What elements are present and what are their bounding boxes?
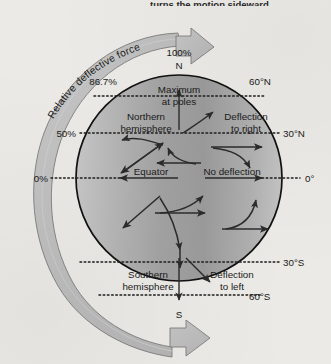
deflection-right-line1: Deflection (224, 111, 268, 122)
coriolis-diagram-svg: Relative deflective force (0, 0, 331, 364)
south-pole-label: S (176, 309, 183, 320)
equator-label: Equator (134, 166, 169, 177)
percent-label-0: 0% (34, 173, 48, 184)
diagram-stage: turns the motion sideward. (0, 0, 331, 364)
deflection-left-line1: Deflection (210, 269, 254, 280)
no-deflection-label: No deflection (203, 166, 260, 177)
latitude-label-30s: 30°S (283, 257, 305, 268)
clipped-caption-text: turns the motion sideward. (150, 0, 271, 6)
percent-label-100: 100% (166, 47, 191, 58)
north-pole-label: N (175, 60, 182, 71)
deflection-left-line2: to left (220, 281, 244, 292)
deflection-right-line2: to right (231, 123, 261, 134)
southern-hemisphere-line2: hemisphere (122, 281, 174, 292)
southern-hemisphere-line1: Southern (128, 269, 168, 280)
northern-hemisphere-line1: Northern (127, 111, 165, 122)
maximum-at-poles-line1: Maximum (158, 84, 200, 95)
latitude-label-30n: 30°N (283, 128, 305, 139)
maximum-at-poles-line2: at poles (162, 96, 196, 107)
percent-label-50: 50% (56, 128, 76, 139)
force-band-arrowhead-top (176, 28, 214, 64)
force-band-arrowhead-bottom (170, 320, 210, 356)
latitude-label-0: 0° (305, 173, 314, 184)
northern-hemisphere-line2: hemisphere (120, 123, 172, 134)
latitude-label-60s: 60°S (249, 291, 271, 302)
latitude-label-60n: 60°N (249, 76, 271, 87)
percent-label-867: 86.7% (89, 76, 117, 87)
